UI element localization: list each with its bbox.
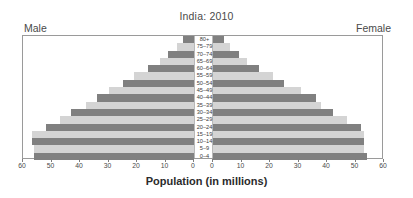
x-axis: 60504030201000102030405060 — [22, 159, 383, 173]
age-group-label: 10–14 — [195, 138, 214, 145]
x-tick-label: 50 — [351, 162, 359, 169]
female-bar-row — [213, 43, 384, 50]
male-bar — [109, 87, 195, 94]
x-axis-label: Population (in millions) — [0, 175, 413, 187]
male-bar — [46, 124, 194, 131]
age-group-label: 80+ — [195, 36, 214, 43]
female-bar — [213, 145, 364, 152]
x-tick-label: 20 — [265, 162, 273, 169]
male-bar-row — [23, 58, 194, 65]
male-bar — [34, 145, 194, 152]
male-bar-row — [23, 36, 194, 43]
male-bar-row — [23, 138, 194, 145]
male-bars-panel — [23, 36, 194, 158]
male-bar — [71, 109, 194, 116]
age-group-label: 20–24 — [195, 124, 214, 131]
female-bar — [213, 116, 347, 123]
male-bar-row — [23, 145, 194, 152]
x-tick-label: 40 — [322, 162, 330, 169]
male-bar — [86, 102, 194, 109]
female-bar — [213, 109, 333, 116]
age-group-label: 30–34 — [195, 109, 214, 116]
female-legend-label: Female — [356, 22, 391, 34]
x-tick-label: 40 — [75, 162, 83, 169]
x-tick-label: 10 — [161, 162, 169, 169]
female-bar-row — [213, 109, 384, 116]
female-bar — [213, 58, 247, 65]
age-group-label: 65–69 — [195, 58, 214, 65]
x-tick-label: 30 — [294, 162, 302, 169]
age-group-label: 70–74 — [195, 51, 214, 58]
female-bar-row — [213, 51, 384, 58]
female-bar — [213, 124, 361, 131]
male-bar-row — [23, 116, 194, 123]
male-bar-row — [23, 131, 194, 138]
male-bar — [148, 65, 194, 72]
male-bar-row — [23, 43, 194, 50]
male-bar — [160, 58, 194, 65]
male-bar — [168, 51, 194, 58]
female-bar-row — [213, 131, 384, 138]
age-group-label: 50–54 — [195, 80, 214, 87]
x-tick-label: 60 — [18, 162, 26, 169]
x-tick-label: 30 — [104, 162, 112, 169]
male-bar — [183, 36, 194, 43]
x-tick-label: 50 — [47, 162, 55, 169]
female-bar — [213, 131, 364, 138]
female-bar — [213, 43, 230, 50]
female-bar — [213, 138, 364, 145]
male-bar — [32, 131, 194, 138]
male-bar — [123, 80, 194, 87]
male-bar-row — [23, 102, 194, 109]
male-bar — [32, 138, 194, 145]
male-bar-row — [23, 72, 194, 79]
male-bar-row — [23, 109, 194, 116]
age-group-label: 45–49 — [195, 87, 214, 94]
age-group-label: 15–19 — [195, 131, 214, 138]
male-bar-row — [23, 80, 194, 87]
female-bar — [213, 65, 259, 72]
x-tick-label: 20 — [132, 162, 140, 169]
age-group-label: 5–9 — [195, 145, 214, 152]
female-bar-row — [213, 36, 384, 43]
male-legend-label: Male — [24, 22, 47, 34]
female-bar-row — [213, 87, 384, 94]
female-bar-row — [213, 116, 384, 123]
female-bar-row — [213, 80, 384, 87]
female-bar-row — [213, 72, 384, 79]
age-group-label: 60–64 — [195, 65, 214, 72]
female-bars-panel — [213, 36, 384, 158]
female-bar — [213, 94, 316, 101]
male-bar — [97, 94, 194, 101]
x-tick-label: 10 — [237, 162, 245, 169]
female-bar — [213, 72, 273, 79]
age-group-label: 40–44 — [195, 94, 214, 101]
chart-title: India: 2010 — [0, 10, 413, 22]
male-bar-row — [23, 65, 194, 72]
female-bar-row — [213, 102, 384, 109]
female-bar — [213, 87, 301, 94]
female-bar — [213, 36, 224, 43]
female-bar-row — [213, 124, 384, 131]
female-bar-row — [213, 58, 384, 65]
male-bar — [177, 43, 194, 50]
female-bar-row — [213, 65, 384, 72]
age-group-label: 35–39 — [195, 102, 214, 109]
female-bar-row — [213, 145, 384, 152]
age-group-axis: 80+75–7970–7465–6960–6455–5950–5445–4940… — [194, 36, 213, 158]
male-bar-row — [23, 94, 194, 101]
plot-area: 80+75–7970–7465–6960–6455–5950–5445–4940… — [22, 35, 383, 159]
female-bar — [213, 80, 284, 87]
male-bar-row — [23, 51, 194, 58]
female-bar — [213, 51, 239, 58]
male-bar-row — [23, 87, 194, 94]
male-bar — [60, 116, 194, 123]
age-group-label: 75–79 — [195, 43, 214, 50]
male-bar — [134, 72, 194, 79]
population-pyramid-chart: India: 2010 Male Female 80+75–7970–7465–… — [0, 0, 413, 198]
x-tick-label: 60 — [379, 162, 387, 169]
female-bar-row — [213, 138, 384, 145]
x-tick-label: 0 — [210, 162, 214, 169]
age-group-label: 25–29 — [195, 116, 214, 123]
age-group-label: 55–59 — [195, 72, 214, 79]
